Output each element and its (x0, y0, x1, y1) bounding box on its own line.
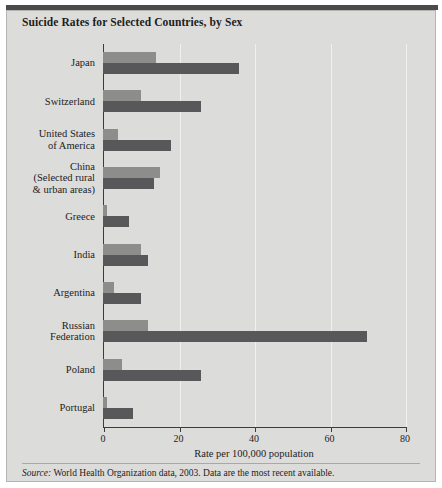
bar-females (103, 282, 114, 293)
category-label: Greece (0, 211, 95, 223)
bar-group: Switzerland (0, 90, 442, 112)
bar-group: Poland (0, 359, 442, 381)
category-label: China(Selected rural& urban areas) (0, 161, 95, 196)
bar-group: Argentina (0, 282, 442, 304)
category-label-line: China (0, 161, 95, 173)
bar-group: Greece (0, 205, 442, 227)
category-label-line: Japan (0, 57, 95, 69)
bar-group: Portugal (0, 397, 442, 419)
bar-males (103, 370, 201, 381)
bar-males (103, 101, 201, 112)
category-label: Portugal (0, 402, 95, 414)
bar-group: RussianFederation (0, 320, 442, 342)
bar-females (103, 359, 122, 370)
bar-males (103, 216, 129, 227)
category-label-line: Poland (0, 364, 95, 376)
category-label: Japan (0, 57, 95, 69)
bar-group: India (0, 244, 442, 266)
category-label-line: & urban areas) (0, 184, 95, 196)
bar-group: China(Selected rural& urban areas) (0, 167, 442, 189)
category-label-line: (Selected rural (0, 172, 95, 184)
bar-males (103, 293, 141, 304)
x-tick-mark (406, 427, 407, 432)
category-label-line: Greece (0, 211, 95, 223)
bar-females (103, 52, 156, 63)
x-tick-mark (255, 427, 256, 432)
bar-females (103, 90, 141, 101)
chart-figure: Suicide Rates for Selected Countries, by… (0, 0, 442, 488)
bar-males (103, 140, 171, 151)
x-tick-mark (104, 427, 105, 432)
category-label: Switzerland (0, 96, 95, 108)
category-label-line: Federation (0, 331, 95, 343)
x-tick-label: 80 (400, 433, 410, 444)
category-label: RussianFederation (0, 320, 95, 343)
category-label-line: Portugal (0, 402, 95, 414)
bar-males (103, 408, 133, 419)
x-tick-mark (180, 427, 181, 432)
category-label-line: Russian (0, 320, 95, 332)
bar-females (103, 129, 118, 140)
bar-females (103, 397, 107, 408)
category-label-line: India (0, 249, 95, 261)
x-tick-label: 20 (174, 433, 184, 444)
bar-males (103, 255, 148, 266)
source-text: World Health Organization data, 2003. Da… (51, 468, 334, 478)
bar-females (103, 320, 148, 331)
bar-group: United Statesof America (0, 129, 442, 151)
source-label: Source: (22, 468, 51, 478)
x-axis-title: Rate per 100,000 population (103, 448, 405, 459)
chart-title: Suicide Rates for Selected Countries, by… (22, 16, 242, 28)
source-note: Source: World Health Organization data, … (22, 468, 334, 478)
category-label-line: Switzerland (0, 96, 95, 108)
category-label-line: Argentina (0, 287, 95, 299)
bar-males (103, 178, 154, 189)
x-tick-label: 40 (249, 433, 259, 444)
footer-divider (22, 463, 420, 464)
bar-females (103, 167, 160, 178)
bar-group: Japan (0, 52, 442, 74)
bar-females (103, 205, 107, 216)
bar-females (103, 244, 141, 255)
category-label-line: United States (0, 128, 95, 140)
category-label: Poland (0, 364, 95, 376)
x-tick-label: 0 (101, 433, 106, 444)
category-label: India (0, 249, 95, 261)
category-label-line: of America (0, 140, 95, 152)
bar-males (103, 63, 239, 74)
category-label: Argentina (0, 287, 95, 299)
bar-males (103, 331, 367, 342)
category-label: United Statesof America (0, 128, 95, 151)
x-tick-mark (331, 427, 332, 432)
x-tick-label: 60 (325, 433, 335, 444)
